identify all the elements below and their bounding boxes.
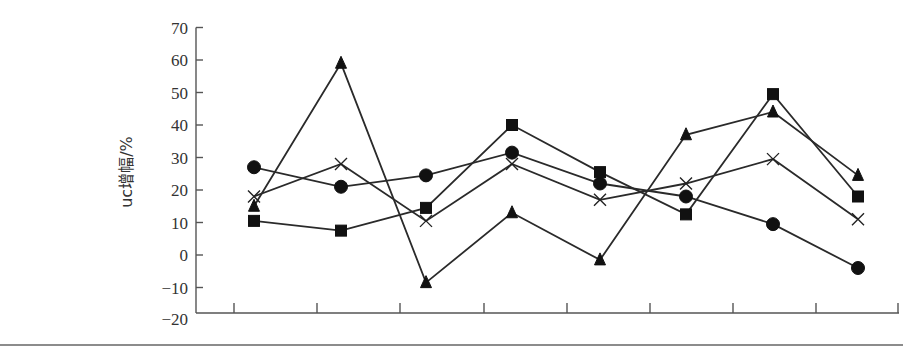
- triangle-marker: [768, 105, 779, 117]
- circle-marker: [248, 161, 261, 174]
- series-layer: [248, 56, 865, 287]
- circle-marker: [506, 146, 519, 159]
- x-marker: [767, 153, 779, 165]
- y-tick-label: 40: [171, 116, 188, 135]
- x-marker: [335, 158, 347, 170]
- x-marker: [852, 213, 864, 225]
- y-axis-label: uc增幅/%: [117, 136, 136, 208]
- y-axis: 706050403020100−10−20: [161, 19, 203, 330]
- square-marker: [336, 225, 347, 236]
- y-tick-label: 0: [180, 246, 189, 265]
- series-line-circle: [254, 153, 858, 268]
- x-marker: [420, 215, 432, 227]
- triangle-marker: [507, 206, 518, 218]
- x-marker: [506, 158, 518, 170]
- triangle-marker: [421, 276, 432, 288]
- x-axis: [196, 303, 899, 313]
- circle-marker: [767, 218, 780, 231]
- y-tick-label: 30: [171, 149, 188, 168]
- circle-marker: [594, 177, 607, 190]
- y-tick-label: 60: [171, 51, 188, 70]
- circle-marker: [335, 180, 348, 193]
- square-marker: [595, 167, 606, 178]
- y-tick-label: −10: [161, 279, 188, 298]
- series-line-square: [254, 94, 858, 231]
- circle-marker: [420, 169, 433, 182]
- square-marker: [681, 209, 692, 220]
- square-marker: [768, 89, 779, 100]
- square-marker: [507, 120, 518, 131]
- triangle-marker: [853, 168, 864, 180]
- y-tick-label: 70: [171, 19, 188, 38]
- line-chart: 706050403020100−10−20 uc增幅/%: [0, 0, 903, 349]
- triangle-marker: [336, 56, 347, 68]
- y-tick-label: 20: [171, 181, 188, 200]
- square-marker: [853, 191, 864, 202]
- square-marker: [421, 202, 432, 213]
- y-tick-label: 50: [171, 84, 188, 103]
- circle-marker: [680, 190, 693, 203]
- square-marker: [249, 215, 260, 226]
- circle-marker: [852, 262, 865, 275]
- y-tick-label: −20: [161, 310, 188, 329]
- y-tick-label: 10: [171, 214, 188, 233]
